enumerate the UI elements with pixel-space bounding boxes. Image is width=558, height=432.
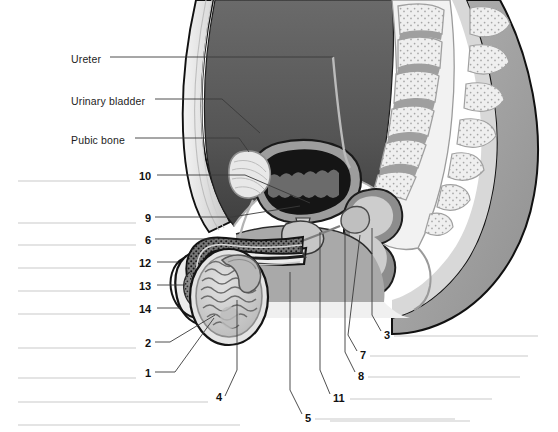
anatomy-illustration [0, 0, 558, 432]
pubic-bone [229, 151, 270, 198]
seminal-vesicle [341, 206, 369, 233]
figure-canvas: UreterUrinary bladderPubic bone109612131… [0, 0, 558, 432]
